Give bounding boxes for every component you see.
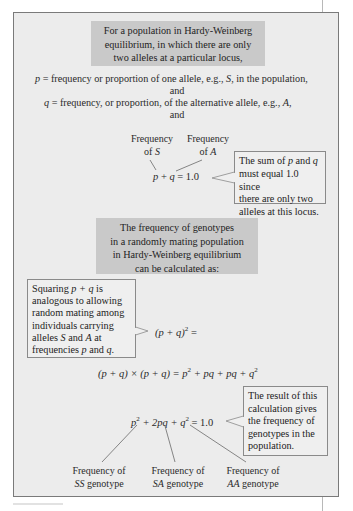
heading-line: in Hardy-Weinberg equilibrium bbox=[96, 248, 258, 262]
label-frequency-ss: Frequency of SS genotype bbox=[64, 465, 134, 490]
callout-result: The result of this calculation gives the… bbox=[243, 386, 328, 456]
formula-expansion: (p + q) × (p + q) = p2 + pq + pq + q2 bbox=[98, 366, 258, 379]
callout-squaring: Squaring p + q is analogous to allowing … bbox=[27, 279, 136, 358]
formula-p-plus-q: p + q = 1.0 bbox=[153, 171, 199, 182]
definition-and-2: and bbox=[14, 109, 340, 121]
label-frequency-of-a: Frequency of A bbox=[180, 133, 236, 158]
heading-genotype-frequency: The frequency of genotypes in a randomly… bbox=[96, 218, 258, 274]
heading-line: in a randomly mating population bbox=[96, 235, 258, 249]
definition-q: q = frequency, or proportion, of the alt… bbox=[44, 97, 292, 109]
heading-line: equilibrium, in which there are only bbox=[91, 38, 265, 52]
label-frequency-aa: Frequency of AA genotype bbox=[218, 465, 288, 490]
callout-sum-equals-one: The sum of p and q must equal 1.0 since … bbox=[234, 151, 326, 204]
definition-and-1: and bbox=[14, 85, 340, 97]
heading-hardy-weinberg-intro: For a population in Hardy-Weinberg equil… bbox=[91, 21, 265, 66]
heading-line: can be calculated as: bbox=[96, 262, 258, 276]
definition-p: p = frequency or proportion of one allel… bbox=[35, 73, 308, 85]
formula-p-plus-q-squared: (p + q)2 = bbox=[155, 325, 197, 338]
formula-hardy-weinberg: p2 + 2pq + q2 = 1.0 bbox=[131, 415, 213, 428]
heading-line: two alleles at a particular locus, bbox=[91, 51, 265, 65]
label-frequency-sa: Frequency of SA genotype bbox=[143, 465, 213, 490]
footer-mark bbox=[13, 503, 63, 505]
heading-line: For a population in Hardy-Weinberg bbox=[91, 24, 265, 38]
heading-line: The frequency of genotypes bbox=[96, 221, 258, 235]
label-frequency-of-s: Frequency of S bbox=[124, 133, 180, 158]
